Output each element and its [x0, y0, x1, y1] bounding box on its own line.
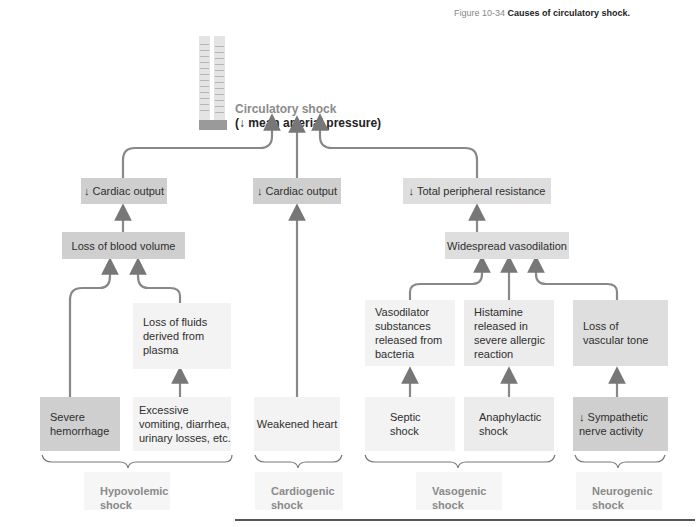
severe-hemorrhage-box: Severe hemorrhage — [40, 397, 120, 451]
bottom-rule — [235, 519, 695, 521]
excessive-vomiting-box: Excessive vomiting, diarrhea, urinary lo… — [133, 397, 231, 451]
total-peripheral-resistance-box: ↓ Total peripheral resistance — [403, 178, 551, 204]
hypovolemic-shock-label: Hypovolemic shock — [84, 472, 170, 510]
loss-of-blood-volume-box: Loss of blood volume — [62, 232, 185, 259]
sympathetic-activity-box: ↓ Sympathetic nerve activity — [573, 397, 668, 451]
septic-shock-box: Septic shock — [365, 397, 455, 451]
vasodilator-substances-box: Vasodilator substances released from bac… — [365, 300, 455, 366]
loss-of-fluids-box: Loss of fluids derived from plasma — [133, 303, 231, 369]
cardiogenic-shock-label: Cardiogenic shock — [255, 472, 343, 510]
widespread-vasodilation-box: Widespread vasodilation — [445, 232, 569, 259]
vasogenic-shock-label: Vasogenic shock — [416, 472, 502, 510]
histamine-box: Histamine released in severe allergic re… — [464, 300, 554, 366]
loss-of-vascular-tone-box: Loss of vascular tone — [573, 300, 668, 366]
weakened-heart-box: Weakened heart — [254, 397, 340, 451]
anaphylactic-shock-box: Anaphylactic shock — [464, 397, 554, 451]
cardiac-output-box-left: ↓ Cardiac output — [81, 178, 167, 204]
cardiac-output-box-center: ↓ Cardiac output — [253, 178, 341, 204]
neurogenic-shock-label: Neurogenic shock — [576, 472, 662, 510]
